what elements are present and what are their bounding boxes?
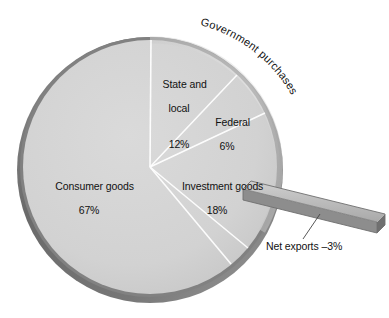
slice-label-consumer-goods: Consumer goods 67% bbox=[34, 168, 144, 240]
slice-label-investment-goods: Investment goods 18% bbox=[160, 168, 274, 240]
slice-label-net-exports: Net exports –3% bbox=[266, 240, 382, 252]
state-local-line1: State and bbox=[163, 78, 207, 90]
investment-goods-percent: 18% bbox=[160, 204, 274, 216]
consumer-goods-percent: 67% bbox=[34, 204, 144, 216]
federal-percent: 6% bbox=[196, 140, 258, 152]
consumer-goods-name: Consumer goods bbox=[55, 180, 134, 192]
slice-label-federal: Federal 6% bbox=[196, 104, 258, 176]
net-exports-leader-line bbox=[303, 214, 320, 239]
investment-goods-name: Investment goods bbox=[182, 180, 263, 192]
pie-chart-figure: Government purchases State and local 12%… bbox=[0, 0, 389, 318]
federal-name: Federal bbox=[215, 116, 250, 128]
